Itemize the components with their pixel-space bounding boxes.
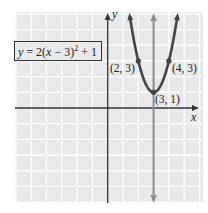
- point-label-2-3: (2, 3): [110, 62, 135, 75]
- point-4-3: [166, 58, 171, 63]
- x-axis-label: x: [190, 110, 197, 124]
- equation-box: y = 2(x − 3)2 + 1: [15, 42, 102, 61]
- vertex-label: (3, 1): [155, 93, 180, 106]
- parabola-graph: x y (2, 3) (4, 3) (3, 1) y = 2(x − 3)2 +…: [0, 0, 208, 213]
- eq-part1: = 2(: [23, 45, 46, 59]
- eq-part2: − 3): [51, 45, 74, 59]
- point-label-4-3: (4, 3): [172, 62, 197, 75]
- y-axis-label: y: [111, 7, 118, 21]
- svg-text:y = 2(x − 3)2 + 1: y = 2(x − 3)2 + 1: [17, 44, 97, 59]
- eq-part3: + 1: [78, 45, 97, 59]
- point-2-3: [136, 58, 141, 63]
